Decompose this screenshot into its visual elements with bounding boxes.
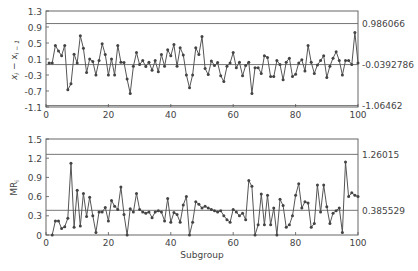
data-point — [207, 73, 210, 76]
x-axis-label: Subgroup — [180, 250, 224, 260]
data-point — [279, 198, 282, 201]
data-point — [232, 208, 235, 211]
data-point — [157, 70, 160, 73]
data-point — [82, 47, 85, 50]
data-point — [176, 213, 179, 216]
data-point — [313, 72, 316, 75]
data-point — [316, 64, 319, 67]
data-point — [300, 58, 303, 61]
x-tick-label: 40 — [165, 238, 177, 248]
y-tick-label: -0.3 — [24, 71, 42, 81]
data-point — [101, 42, 104, 45]
data-point — [63, 44, 66, 47]
data-point — [88, 58, 91, 61]
data-point — [123, 213, 126, 216]
data-point — [244, 218, 247, 221]
data-point — [169, 54, 172, 57]
data-point — [48, 62, 51, 65]
data-point — [294, 73, 297, 76]
data-point — [141, 59, 144, 62]
x-tick-label: 20 — [103, 110, 115, 120]
data-point — [107, 74, 110, 77]
y-tick-label: 0.6 — [28, 192, 43, 202]
data-point — [182, 54, 185, 57]
data-point — [353, 31, 356, 34]
data-point — [266, 56, 269, 59]
data-point — [119, 186, 122, 189]
data-point — [300, 207, 303, 210]
data-point — [269, 75, 272, 78]
bottom-x-axis-ticks: 020406080100 — [43, 232, 367, 248]
data-point — [254, 66, 257, 69]
data-point — [347, 59, 350, 62]
data-point — [319, 59, 322, 62]
data-point — [247, 179, 250, 182]
data-point — [244, 64, 247, 67]
data-point — [275, 234, 278, 237]
data-point — [185, 195, 188, 198]
data-point — [182, 203, 185, 206]
data-point — [151, 216, 154, 219]
data-point — [257, 223, 260, 226]
data-point — [297, 182, 300, 185]
data-point — [188, 234, 191, 237]
top-y-axis-ticks: -1.1-0.7-0.30.10.50.91.3 — [24, 7, 49, 113]
data-point — [201, 207, 204, 210]
top-chart: -1.1-0.7-0.30.10.50.91.3 020406080100 0.… — [9, 7, 414, 121]
data-point — [79, 225, 82, 228]
data-point — [319, 210, 322, 213]
data-point — [66, 88, 69, 91]
data-point — [247, 61, 250, 64]
data-point — [179, 46, 182, 49]
data-point — [225, 65, 228, 68]
data-point — [341, 74, 344, 77]
data-point — [98, 210, 101, 213]
control-limit-label: 0.385529 — [362, 206, 405, 216]
x-tick-label: 40 — [165, 110, 177, 120]
data-point — [219, 74, 222, 77]
data-point — [322, 54, 325, 57]
data-point — [51, 62, 54, 65]
data-point — [129, 92, 132, 95]
data-point — [328, 222, 331, 225]
data-point — [73, 53, 76, 56]
data-point — [225, 218, 228, 221]
y-tick-label: -1.1 — [24, 103, 42, 113]
data-point — [353, 194, 356, 197]
data-point — [126, 234, 129, 237]
data-point — [107, 219, 110, 222]
data-point — [191, 74, 194, 77]
data-point — [88, 196, 91, 199]
data-point — [147, 61, 150, 64]
data-point — [229, 62, 232, 65]
data-point — [185, 74, 188, 77]
x-tick-label: 80 — [290, 110, 302, 120]
data-point — [197, 203, 200, 206]
data-point — [303, 200, 306, 203]
data-point — [116, 208, 119, 211]
data-point — [60, 54, 63, 57]
data-point — [147, 210, 150, 213]
data-point — [238, 61, 241, 64]
data-point — [101, 210, 104, 213]
data-point — [260, 72, 263, 75]
data-point — [163, 65, 166, 68]
data-point — [204, 67, 207, 70]
data-point — [104, 206, 107, 209]
data-point — [69, 162, 72, 165]
data-point — [94, 231, 97, 234]
data-point — [197, 53, 200, 56]
data-point — [341, 231, 344, 234]
data-point — [272, 75, 275, 78]
data-point — [357, 195, 360, 198]
data-point — [338, 59, 341, 62]
data-point — [288, 57, 291, 60]
control-limit-label: -1.06462 — [362, 101, 402, 111]
data-point — [76, 62, 79, 65]
data-point — [310, 61, 313, 64]
data-point — [110, 199, 113, 202]
data-point — [350, 191, 353, 194]
data-point — [350, 63, 353, 66]
top-x-axis-ticks: 020406080100 — [43, 104, 367, 120]
data-point — [160, 210, 163, 213]
